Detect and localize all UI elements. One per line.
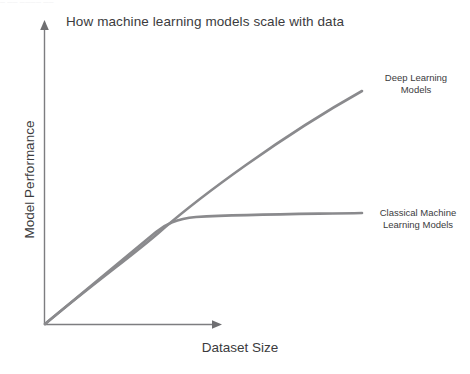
y-axis-arrowhead-icon <box>40 20 49 30</box>
chart-plot-area <box>0 0 470 374</box>
classical-ml-annotation-line2: Learning Models <box>366 219 470 231</box>
classical-ml-annotation-line1: Classical Machine <box>366 207 470 219</box>
y-axis-label: Model Performance <box>22 105 37 255</box>
x-axis-arrowhead-icon <box>212 320 222 329</box>
chart-canvas: — —— ———— —— How machine learning models… <box>0 0 470 374</box>
deep-learning-annotation-line1: Deep Learning <box>366 72 466 84</box>
classical-ml-annotation: Classical Machine Learning Models <box>366 207 470 231</box>
deep-learning-annotation: Deep Learning Models <box>366 72 466 96</box>
deep-learning-annotation-line2: Models <box>366 84 466 96</box>
chart-title: How machine learning models scale with d… <box>66 14 396 29</box>
classical-ml-curve <box>45 213 362 324</box>
deep-learning-curve <box>45 91 362 324</box>
x-axis-label: Dataset Size <box>160 340 320 355</box>
